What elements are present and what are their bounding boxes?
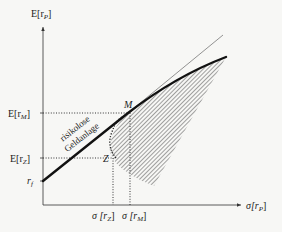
point-label-z: Z (103, 153, 109, 164)
tick-label-erz: E[rZ] (10, 153, 30, 166)
capital-market-line-diagram: E[rP] σ[rP] E[rM] E[rZ] rf σ [rZ] σ [rM]… (0, 0, 282, 232)
point-label-m: M (123, 99, 133, 110)
tick-label-srz: σ [rZ] (92, 210, 114, 223)
tick-label-erm: E[rM] (8, 108, 30, 121)
y-axis-label: E[rP] (31, 8, 51, 21)
tick-label-srm: σ [rM] (122, 210, 146, 223)
x-axis-label: σ[rP] (246, 200, 266, 213)
opportunity-set-region (110, 57, 226, 186)
risk-free-line-label: risikolose Geldanlage (56, 112, 101, 154)
tick-label-rf: rf (27, 175, 34, 188)
